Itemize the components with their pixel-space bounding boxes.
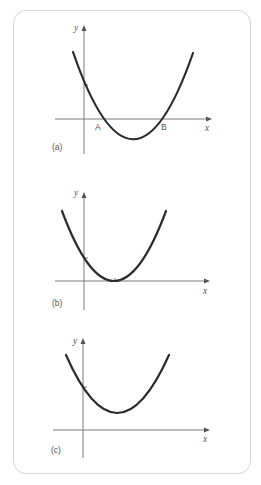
- y-axis-arrow-icon: [82, 192, 87, 198]
- parabola-figures: y x A B (a) y x (b) y x (c): [0, 0, 261, 485]
- y-axis-arrow-icon: [82, 25, 87, 31]
- point-b-label: B: [161, 122, 167, 132]
- y-axis-label: y: [72, 336, 78, 346]
- graph-label: (c): [51, 445, 61, 455]
- graph-c: y x (c): [51, 336, 210, 458]
- x-axis-arrow-icon: [204, 428, 210, 433]
- graph-a: y x A B (a): [52, 23, 212, 154]
- x-axis-label: x: [204, 123, 210, 133]
- parabola-curve: [73, 52, 193, 139]
- graph-label: (a): [52, 142, 63, 152]
- x-axis-arrow-icon: [204, 279, 210, 284]
- y-axis-arrow-icon: [81, 338, 86, 344]
- x-axis-label: x: [202, 286, 208, 296]
- graph-b: y x (b): [52, 188, 210, 310]
- y-axis-label: y: [73, 188, 79, 198]
- graph-label: (b): [52, 298, 63, 308]
- point-a-label: A: [95, 122, 101, 132]
- x-axis-label: x: [202, 434, 208, 444]
- x-axis-arrow-icon: [206, 117, 212, 122]
- parabola-curve: [66, 355, 169, 413]
- y-axis-label: y: [73, 23, 79, 33]
- parabola-curve: [62, 211, 166, 281]
